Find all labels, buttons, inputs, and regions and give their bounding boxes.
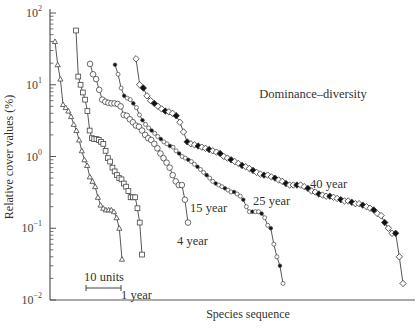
- series-label: 40 year: [310, 177, 348, 191]
- y-tick-label: 100: [26, 148, 42, 164]
- y-tick-label: 101: [26, 76, 42, 92]
- series-layer: [52, 28, 406, 287]
- y-tick-label: 10−2: [21, 291, 42, 307]
- series-4-year: [74, 28, 145, 257]
- y-tick-label: 102: [26, 4, 42, 20]
- y-axis-title: Relative cover values (%): [2, 95, 16, 219]
- scale-bar-label: 10 units: [84, 270, 124, 284]
- series-label: 4 year: [177, 234, 209, 248]
- y-axis: 10210110010−110−2: [21, 4, 56, 307]
- y-tick-label: 10−1: [21, 219, 42, 235]
- dominance-diversity-chart: 10210110010−110−2 10 units1 year4 year15…: [0, 0, 420, 331]
- x-axis-title: Species sequence: [206, 307, 290, 321]
- series-1-year: [52, 39, 124, 261]
- series-label: 25 year: [253, 194, 291, 208]
- series-label: 1 year: [121, 288, 153, 302]
- series-label: 15 year: [190, 201, 228, 215]
- annotations: 10 units1 year4 year15 year25 year40 yea…: [84, 177, 348, 302]
- chart-title: Dominance–diversity: [259, 87, 367, 101]
